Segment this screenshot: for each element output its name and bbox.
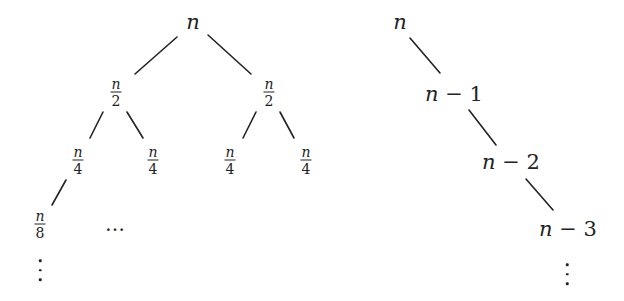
node-n-over-2-left: n 2	[110, 77, 121, 108]
horizontal-ellipsis: …	[105, 214, 127, 234]
fraction-numerator: n	[110, 77, 121, 93]
offset: − 3	[553, 217, 597, 241]
fraction-denominator: 4	[226, 161, 235, 176]
fraction-numerator: n	[263, 77, 274, 93]
offset: − 1	[439, 82, 483, 106]
edge-l1b-left	[243, 112, 256, 138]
edge-chain-1	[410, 38, 440, 73]
edge-l1b-right	[280, 112, 294, 138]
edge-root-left	[135, 37, 177, 74]
fraction-denominator: 2	[112, 93, 121, 108]
chain-node-n-minus-3: n − 3	[539, 219, 597, 240]
fraction-denominator: 4	[74, 161, 83, 176]
chain-node-n-minus-2: n − 2	[482, 152, 540, 173]
fraction-numerator: n	[224, 145, 235, 161]
node-n-over-4-2: n 4	[147, 145, 158, 176]
vertical-ellipsis-right	[566, 263, 569, 285]
variable: n	[539, 217, 553, 241]
edge-chain-3	[526, 179, 553, 210]
edge-root-right	[208, 35, 251, 74]
chain-node-n: n	[393, 12, 407, 33]
fraction-numerator: n	[72, 145, 83, 161]
recursion-tree-diagram: n n 2 n 2 n 4 n 4 n 4 n 4 n 8 … n n − 1 …	[0, 0, 624, 301]
fraction-numerator: n	[34, 209, 45, 225]
node-n-over-4-1: n 4	[72, 145, 83, 176]
fraction-denominator: 8	[36, 225, 45, 240]
edge-l2a-left	[52, 180, 66, 205]
fraction-denominator: 2	[265, 93, 274, 108]
edge-l1a-left	[90, 112, 103, 138]
node-root: n	[186, 12, 200, 33]
node-n-over-4-4: n 4	[300, 145, 311, 176]
variable: n	[482, 150, 496, 174]
edge-chain-2	[469, 110, 496, 145]
node-n-over-4-3: n 4	[224, 145, 235, 176]
variable: n	[393, 10, 407, 34]
vertical-ellipsis-left	[39, 259, 42, 281]
edge-l1a-right	[127, 112, 143, 138]
fraction-denominator: 4	[149, 161, 158, 176]
chain-node-n-minus-1: n − 1	[425, 84, 483, 105]
fraction-numerator: n	[300, 145, 311, 161]
node-n-over-2-right: n 2	[263, 77, 274, 108]
offset: − 2	[496, 150, 540, 174]
fraction-numerator: n	[147, 145, 158, 161]
variable: n	[425, 82, 439, 106]
fraction-denominator: 4	[302, 161, 311, 176]
node-n-over-8: n 8	[34, 209, 45, 240]
